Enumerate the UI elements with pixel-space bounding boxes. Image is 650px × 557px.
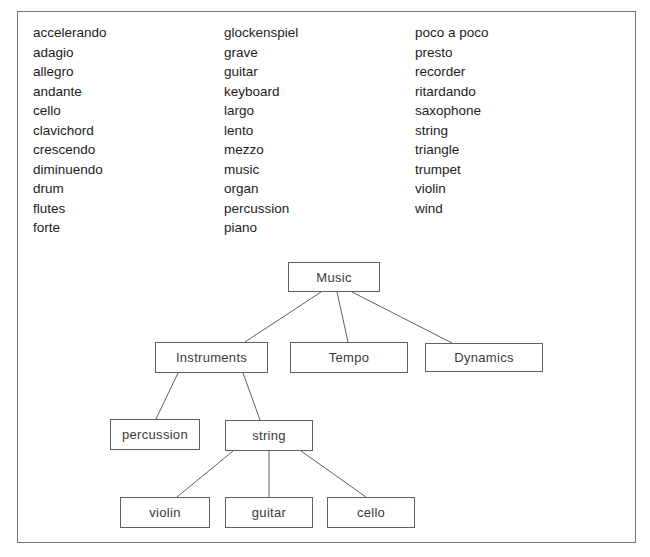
tree-node-instruments: Instruments (155, 342, 268, 373)
word-list-item: music (224, 160, 298, 180)
tree-node-label: Dynamics (454, 350, 513, 365)
word-list-column-3: poco a poco presto recorder ritardando s… (415, 23, 489, 218)
tree-node-tempo: Tempo (290, 342, 408, 373)
word-list-item: crescendo (33, 140, 107, 160)
tree-node-label: Music (316, 270, 351, 285)
tree-node-cello: cello (327, 497, 415, 528)
tree-node-percussion: percussion (110, 419, 200, 450)
tree-node-label: guitar (252, 505, 286, 520)
word-list-item: trumpet (415, 160, 489, 180)
word-list-item: grave (224, 43, 298, 63)
word-list-item: ritardando (415, 82, 489, 102)
word-list-item: accelerando (33, 23, 107, 43)
tree-node-music: Music (288, 262, 380, 292)
word-list-item: adagio (33, 43, 107, 63)
tree-node-string: string (225, 420, 313, 451)
word-list-item: saxophone (415, 101, 489, 121)
tree-node-label: Instruments (176, 350, 247, 365)
tree-node-dynamics: Dynamics (425, 343, 543, 372)
word-list-item: diminuendo (33, 160, 107, 180)
word-list-item: piano (224, 218, 298, 238)
word-list-item: forte (33, 218, 107, 238)
word-list-item: poco a poco (415, 23, 489, 43)
word-list-item: cello (33, 101, 107, 121)
word-list-column-2: glockenspiel grave guitar keyboard largo… (224, 23, 298, 238)
word-list-item: wind (415, 199, 489, 219)
word-list-item: lento (224, 121, 298, 141)
tree-node-guitar: guitar (225, 497, 313, 528)
word-list-item: andante (33, 82, 107, 102)
tree-node-violin: violin (120, 497, 210, 528)
word-list-item: drum (33, 179, 107, 199)
tree-node-label: percussion (122, 427, 188, 442)
word-list-item: recorder (415, 62, 489, 82)
word-list-item: guitar (224, 62, 298, 82)
tree-node-label: cello (357, 505, 385, 520)
tree-node-label: violin (149, 505, 180, 520)
word-list-item: allegro (33, 62, 107, 82)
word-list-item: largo (224, 101, 298, 121)
tree-node-label: Tempo (329, 350, 370, 365)
word-list-item: keyboard (224, 82, 298, 102)
word-list-item: clavichord (33, 121, 107, 141)
word-list-item: glockenspiel (224, 23, 298, 43)
word-list-item: presto (415, 43, 489, 63)
word-list-column-1: accelerando adagio allegro andante cello… (33, 23, 107, 238)
word-list-item: mezzo (224, 140, 298, 160)
tree-node-label: string (252, 428, 286, 443)
word-list-item: percussion (224, 199, 298, 219)
word-list-item: violin (415, 179, 489, 199)
word-list-item: organ (224, 179, 298, 199)
word-list-item: string (415, 121, 489, 141)
word-list-item: flutes (33, 199, 107, 219)
word-list-item: triangle (415, 140, 489, 160)
